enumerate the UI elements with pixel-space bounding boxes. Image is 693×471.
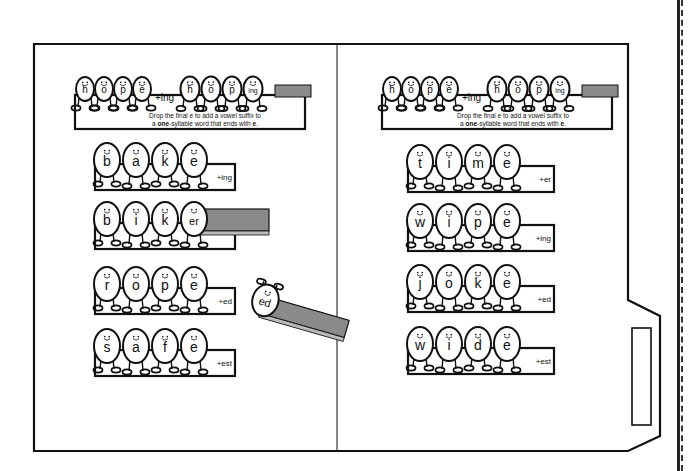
egg-letter: p [427, 84, 433, 95]
egg-eye [475, 334, 477, 336]
egg-character: m [465, 145, 492, 189]
word-strip: rope+ed [94, 267, 236, 314]
egg-eye [166, 209, 168, 211]
egg-eye [195, 209, 197, 211]
egg-character: e [494, 265, 521, 311]
egg-foot [141, 307, 150, 312]
egg-letter: e [190, 339, 198, 355]
egg-foot [199, 369, 208, 374]
caption-line-2: a one-syllable word that ends with e. [408, 120, 618, 128]
egg-character: i [436, 145, 463, 191]
suffix-label: +er [539, 175, 551, 184]
suffix-label: +ing [536, 234, 551, 243]
egg-eye [412, 82, 414, 84]
egg-eye [195, 150, 197, 152]
egg-eye [508, 211, 510, 213]
egg-eye [504, 152, 506, 154]
egg-character: o [436, 265, 463, 311]
egg-foot [141, 369, 150, 374]
egg-eye [137, 209, 139, 211]
egg-foot [483, 303, 492, 308]
egg-letter: k [475, 275, 483, 291]
egg-eye [393, 82, 395, 84]
egg-foot [512, 367, 521, 372]
egg-eye [427, 82, 429, 84]
egg-eye [233, 81, 235, 83]
egg-eye [229, 81, 231, 83]
egg-character: f [152, 329, 179, 373]
egg-character: w [407, 204, 434, 248]
egg-letter: ing [555, 87, 564, 95]
egg-letter: o [408, 84, 414, 95]
egg-eye [195, 274, 197, 276]
egg-character: b [94, 143, 121, 187]
egg-eye [498, 81, 500, 83]
egg-foot [436, 367, 445, 372]
egg-foot [181, 183, 190, 188]
egg-character: a [123, 143, 150, 189]
egg-foot [170, 240, 179, 245]
left-example-caption: Drop the final e to add a vowel suffix t… [100, 112, 310, 128]
folder-illustration: hope+inghopingbake+ingbikerrope+edsafe+e… [0, 0, 693, 471]
egg-eye [133, 209, 135, 211]
egg-eye [504, 211, 506, 213]
egg-eye [417, 334, 419, 336]
egg-eye [104, 209, 106, 211]
egg-character: i [123, 202, 150, 248]
egg-character: e [494, 145, 521, 191]
caption-line-1: Drop the final e to add a vowel suffix t… [100, 112, 310, 120]
egg-character: ing [547, 77, 574, 112]
egg-eye [124, 82, 126, 84]
caption-line-1: Drop the final e to add a vowel suffix t… [408, 112, 618, 120]
egg-letter: b [103, 153, 111, 169]
egg-foot [483, 183, 492, 188]
egg-letter: f [163, 339, 167, 355]
egg-letter: er [189, 215, 199, 227]
egg-foot [219, 106, 228, 111]
egg-eye [162, 336, 164, 338]
egg-character: e [494, 327, 521, 373]
egg-foot [465, 183, 474, 188]
egg-eye [108, 336, 110, 338]
egg-letter: o [101, 84, 107, 95]
egg-foot [494, 244, 503, 249]
egg-letter: e [503, 214, 511, 230]
egg-eye [446, 211, 448, 213]
egg-foot [465, 242, 474, 247]
egg-foot [565, 106, 574, 111]
egg-letter: o [132, 277, 140, 293]
egg-foot [123, 369, 132, 374]
egg-letter: h [187, 84, 193, 95]
egg-foot [199, 307, 208, 312]
egg-eye [108, 150, 110, 152]
egg-foot [177, 106, 186, 111]
egg-eye [208, 81, 210, 83]
example-suffix: +ing [155, 92, 174, 103]
egg-eye [446, 272, 448, 274]
word-strip: wipe+ing [407, 204, 555, 251]
suffix-label: +est [536, 357, 552, 366]
egg-character: e [494, 204, 521, 250]
egg-eye [504, 334, 506, 336]
egg-character: e [181, 143, 208, 189]
egg-letter: p [536, 84, 542, 95]
egg-letter: m [472, 155, 484, 171]
egg-foot [465, 365, 474, 370]
example-slide-bar [275, 85, 311, 97]
egg-character: p [465, 204, 492, 248]
egg-letter: h [494, 84, 500, 95]
egg-letter: k [162, 153, 170, 169]
egg-eye [508, 272, 510, 274]
egg-eye [389, 82, 391, 84]
egg-letter: r [105, 277, 110, 293]
egg-eye [536, 81, 538, 83]
egg-eye [421, 211, 423, 213]
egg-character: i [436, 204, 463, 250]
caption-line-2: a one-syllable word that ends with e. [100, 120, 310, 128]
egg-foot [425, 365, 434, 370]
egg-foot [152, 240, 161, 245]
egg-character: w [407, 327, 434, 371]
egg-eye [446, 82, 448, 84]
egg-foot [258, 106, 267, 111]
egg-character: b [94, 202, 121, 246]
